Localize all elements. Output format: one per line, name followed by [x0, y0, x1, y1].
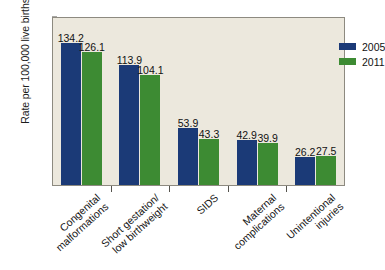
- y-axis-title: Rate per 100,000 live births: [19, 0, 31, 146]
- legend-item-2005: 2005: [339, 39, 385, 54]
- bar-value-label: 27.5: [316, 145, 336, 157]
- bar-2011-0: [82, 52, 102, 185]
- x-category-label: Short gestation/low birthweight: [99, 192, 169, 258]
- bar-2005-3: [237, 140, 257, 185]
- legend-swatch-2011: [339, 58, 356, 65]
- bar-value-label: 104.1: [137, 64, 163, 76]
- x-category-label: SIDS: [194, 192, 220, 217]
- bar-value-label: 43.3: [199, 128, 219, 140]
- bar-value-label: 26.2: [295, 146, 315, 158]
- x-category-line-1: SIDS: [194, 191, 220, 216]
- bar-value-label: 126.1: [79, 41, 105, 53]
- bar-2011-1: [140, 75, 160, 185]
- legend-label-2005: 2005: [362, 41, 385, 53]
- x-tick-mark: [111, 186, 112, 192]
- legend-swatch-2005: [339, 43, 356, 50]
- bar-2005-1: [119, 65, 139, 185]
- x-category-label: Unintentionalinjuries: [284, 192, 345, 250]
- x-category-label: Maternalcomplications: [224, 192, 287, 252]
- bar-2005-4: [295, 157, 315, 185]
- x-tick-mark: [286, 186, 287, 192]
- plot-area: 134.2126.1113.9104.153.943.342.939.926.2…: [52, 17, 345, 186]
- legend-item-2011: 2011: [339, 54, 385, 69]
- x-tick-mark: [228, 186, 229, 192]
- bar-value-label: 53.9: [178, 117, 198, 129]
- bar-2005-2: [178, 128, 198, 185]
- bar-2011-3: [258, 143, 278, 185]
- legend-label-2011: 2011: [362, 56, 385, 68]
- x-tick-mark: [169, 186, 170, 192]
- bar-2011-4: [316, 156, 336, 185]
- legend: 20052011: [339, 39, 385, 69]
- bar-value-label: 39.9: [257, 132, 277, 144]
- bar-2005-0: [61, 43, 81, 185]
- bar-value-label: 42.9: [236, 129, 256, 141]
- bar-2011-2: [199, 139, 219, 185]
